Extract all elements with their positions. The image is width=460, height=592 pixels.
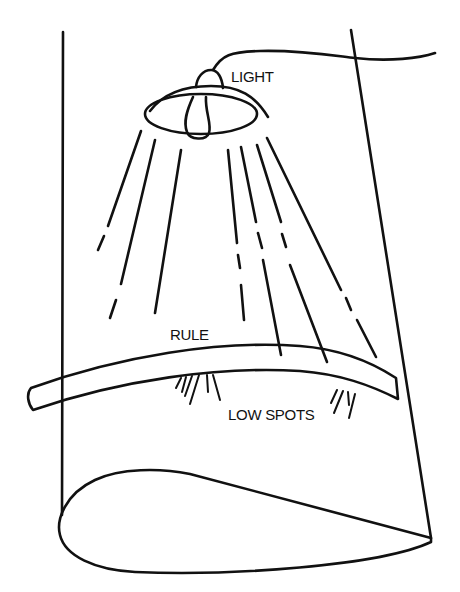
low-spot-marks-left bbox=[176, 375, 220, 404]
airfoil-diagram bbox=[0, 0, 460, 592]
label-rule: RULE bbox=[170, 326, 209, 343]
lamp-shade bbox=[150, 86, 268, 117]
label-low-spots: LOW SPOTS bbox=[228, 406, 314, 423]
airfoil-section bbox=[59, 470, 431, 573]
wing-leading-edge-line bbox=[62, 32, 63, 515]
wing-trailing-edge-line bbox=[351, 30, 431, 538]
low-spot-marks-right bbox=[331, 390, 355, 418]
lamp-rim bbox=[145, 94, 257, 134]
light-rays bbox=[98, 131, 376, 362]
label-light: LIGHT bbox=[231, 68, 274, 85]
